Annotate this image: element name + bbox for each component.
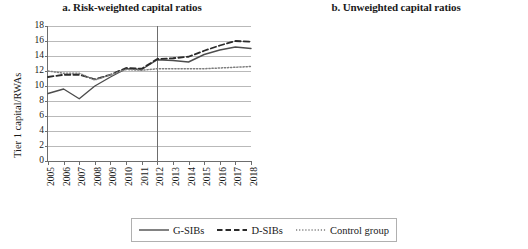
y-tick-label: 12 [35,66,45,76]
chart-legend: G-SIBsD-SIBsControl group [131,218,397,242]
legend-item-d-sibs: D-SIBs [217,225,283,236]
legend-label: Control group [330,225,389,236]
x-tick-label: 2017 [235,167,245,186]
series-layer [48,26,251,161]
y-tick-label: 8 [39,96,44,106]
x-tick-label: 2009 [110,167,120,186]
y-tick-label: 16 [35,36,45,46]
x-tick-mark [142,161,143,165]
x-tick-mark [220,161,221,165]
panel-b: b. Unweighted capital ratios Tier 1 capi… [264,0,528,212]
x-tick-mark [251,161,252,165]
panel-a: a. Risk-weighted capital ratios Tier 1 c… [0,0,264,212]
x-tick-mark [126,161,127,165]
x-tick-label: 2018 [250,167,260,186]
x-tick-label: 2014 [188,167,198,186]
legend-swatch-dotted-icon [296,226,326,234]
x-tick-mark [204,161,205,165]
x-tick-label: 2006 [63,167,73,186]
y-tick-label: 4 [39,126,44,136]
figure-capital-ratios: a. Risk-weighted capital ratios Tier 1 c… [0,0,528,249]
x-tick-mark [189,161,190,165]
y-tick-label: 6 [39,111,44,121]
x-tick-mark [79,161,80,165]
legend-swatch-dashed-icon [217,226,247,234]
x-tick-label: 2011 [141,167,151,186]
y-tick-label: 10 [35,81,45,91]
x-tick-mark [64,161,65,165]
panel-a-title: a. Risk-weighted capital ratios [0,1,264,13]
x-tick-label: 2015 [203,167,213,186]
series-line-control-group [48,67,251,81]
y-tick-label: 0 [39,156,44,166]
panel-a-y-axis-label: Tier 1 capital/RWAs [12,73,23,158]
legend-item-control-group: Control group [296,225,389,236]
panel-b-title: b. Unweighted capital ratios [264,1,528,13]
x-tick-label: 2010 [125,167,135,186]
x-tick-label: 2016 [219,167,229,186]
y-tick-label: 18 [35,21,45,31]
x-tick-label: 2008 [94,167,104,186]
x-tick-label: 2007 [78,167,88,186]
y-tick-label: 14 [35,51,45,61]
legend-swatch-solid-icon [139,226,169,234]
x-tick-mark [173,161,174,165]
x-tick-mark [95,161,96,165]
x-tick-mark [235,161,236,165]
x-tick-mark [110,161,111,165]
legend-item-g-sibs: G-SIBs [139,225,205,236]
legend-label: G-SIBs [173,225,205,236]
legend-label: D-SIBs [251,225,283,236]
panel-a-plot-area: 0246810121416182005200620072008200920102… [47,26,251,162]
x-tick-label: 2012 [157,167,167,186]
x-tick-mark [48,161,49,165]
x-tick-mark [157,161,158,165]
y-tick-label: 2 [39,141,44,151]
x-tick-label: 2013 [172,167,182,186]
x-tick-label: 2005 [47,167,57,186]
